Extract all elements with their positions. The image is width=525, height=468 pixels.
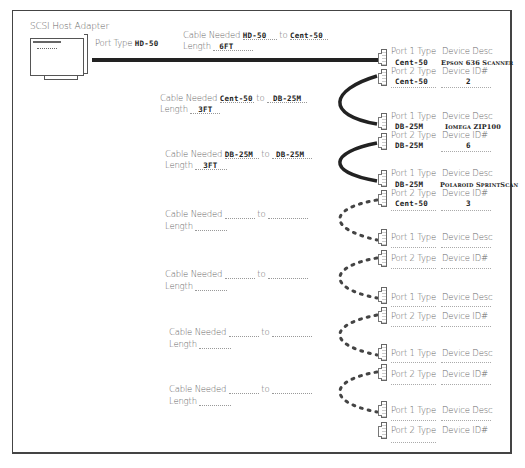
cable-6-length-value[interactable] bbox=[199, 340, 231, 349]
to-label: to bbox=[256, 93, 264, 103]
port-1-connector-icon bbox=[381, 170, 387, 187]
cable-2-from[interactable]: Cent-50 bbox=[220, 94, 254, 103]
device-5-port2-field[interactable] bbox=[391, 326, 436, 327]
port-2-connector-icon bbox=[381, 364, 387, 381]
to-label: to bbox=[279, 30, 287, 40]
device-3-port2-label: Port 2 Type bbox=[391, 188, 436, 198]
length-label: Length bbox=[169, 339, 197, 349]
device-2-port2-value[interactable]: DB-25M bbox=[395, 141, 423, 150]
cable-6-from[interactable] bbox=[229, 328, 259, 337]
device-2-port1-label: Port 1 Type bbox=[391, 111, 436, 121]
device-3-id-value[interactable]: 3 bbox=[466, 199, 471, 208]
device-5-desc-field[interactable] bbox=[441, 306, 491, 307]
port-1-connector-icon bbox=[381, 49, 387, 66]
cable-1-to[interactable]: Cent-50 bbox=[290, 31, 328, 40]
cable-4-from[interactable] bbox=[225, 210, 255, 219]
device-6-desc-field[interactable] bbox=[441, 362, 491, 363]
port-1-connector-icon bbox=[381, 229, 387, 246]
device-4-port2-label: Port 2 Type bbox=[391, 253, 436, 263]
cable-4-needed: Cable Needed to bbox=[165, 209, 308, 219]
device-5-port1-field[interactable] bbox=[391, 306, 436, 307]
cable-2-to[interactable]: DB-25M bbox=[267, 94, 307, 103]
device-5-port2-label: Port 2 Type bbox=[391, 311, 436, 321]
cable-1-length-value[interactable]: 6FT bbox=[213, 42, 253, 51]
device-6-port1-label: Port 1 Type bbox=[391, 348, 436, 358]
field-underline bbox=[391, 210, 436, 211]
field-underline bbox=[441, 210, 491, 211]
cable-6-length: Length bbox=[169, 339, 231, 349]
cable-needed-label: Cable Needed bbox=[165, 209, 222, 219]
field-underline bbox=[441, 151, 491, 152]
device-5-port1-label: Port 1 Type bbox=[391, 292, 436, 302]
device-7-port1-label: Port 1 Type bbox=[391, 405, 436, 415]
device-6-id-label: Device ID# bbox=[442, 369, 488, 379]
cable-4-to[interactable] bbox=[268, 210, 308, 219]
cable-3-length-value[interactable]: 3FT bbox=[195, 161, 227, 170]
device-5-id-field[interactable] bbox=[441, 326, 491, 327]
device-7-id-label: Device ID# bbox=[442, 425, 488, 435]
length-label: Length bbox=[169, 396, 197, 406]
device-5-id-label: Device ID# bbox=[442, 311, 488, 321]
device-2-desc-label: Device Desc bbox=[442, 111, 492, 121]
device-1-id-label: Device ID# bbox=[442, 66, 488, 76]
device-1-port2-label: Port 2 Type bbox=[391, 66, 436, 76]
device-1-port1-label: Port 1 Type bbox=[391, 46, 436, 56]
device-4-port1-field[interactable] bbox=[391, 247, 436, 248]
cable-5-length: Length bbox=[165, 281, 227, 291]
cable-2-length: Length 3FT bbox=[160, 104, 220, 114]
device-6-port2-field[interactable] bbox=[391, 384, 436, 385]
cable-needed-label: Cable Needed bbox=[165, 269, 222, 279]
cable-1-from[interactable]: HD-50 bbox=[243, 31, 277, 40]
cable-3-from[interactable]: DB-25M bbox=[225, 150, 259, 159]
cable-5-from[interactable] bbox=[225, 270, 255, 279]
device-2-id-value[interactable]: 6 bbox=[466, 141, 471, 150]
device-6-desc-label: Device Desc bbox=[442, 348, 492, 358]
length-label: Length bbox=[165, 221, 193, 231]
device-1-id-value[interactable]: 2 bbox=[466, 77, 471, 86]
cable-needed-label: Cable Needed bbox=[169, 327, 226, 337]
cable-7-length-value[interactable] bbox=[199, 397, 231, 406]
device-4-port2-field[interactable] bbox=[391, 268, 436, 269]
device-7-port2-field[interactable] bbox=[391, 442, 436, 443]
port-1-connector-icon bbox=[381, 287, 387, 304]
cable-2-length-value[interactable]: 3FT bbox=[190, 105, 220, 114]
device-4-id-label: Device ID# bbox=[442, 253, 488, 263]
cable-5-length-value[interactable] bbox=[195, 282, 227, 291]
cable-7-from[interactable] bbox=[229, 385, 259, 394]
to-label: to bbox=[257, 209, 265, 219]
device-6-id-field[interactable] bbox=[441, 384, 491, 385]
cable-3-to[interactable]: DB-25M bbox=[272, 150, 312, 159]
cable-2-needed: Cable Needed Cent-50 to DB-25M bbox=[160, 93, 307, 103]
port-2-connector-icon bbox=[381, 69, 387, 86]
to-label: to bbox=[257, 269, 265, 279]
device-6-port1-field[interactable] bbox=[391, 362, 436, 363]
device-7-desc-field[interactable] bbox=[441, 420, 491, 421]
port-1-connector-icon bbox=[381, 113, 387, 130]
cable-7-to[interactable] bbox=[272, 385, 312, 394]
port-2-connector-icon bbox=[381, 422, 387, 439]
cable-needed-label: Cable Needed bbox=[165, 149, 222, 159]
port-2-connector-icon bbox=[381, 190, 387, 207]
cable-7-needed: Cable Needed to bbox=[169, 384, 312, 394]
to-label: to bbox=[261, 149, 269, 159]
length-label: Length bbox=[165, 160, 193, 170]
device-1-desc-label: Device Desc bbox=[442, 46, 492, 56]
cable-needed-label: Cable Needed bbox=[169, 384, 226, 394]
cable-5-to[interactable] bbox=[268, 270, 308, 279]
cable-4-length-value[interactable] bbox=[195, 222, 227, 231]
cable-1-needed: Cable Needed HD-50 to Cent-50 bbox=[183, 30, 328, 40]
device-3-port1-label: Port 1 Type bbox=[391, 168, 436, 178]
device-7-port2-label: Port 2 Type bbox=[391, 425, 436, 435]
device-4-id-field[interactable] bbox=[441, 268, 491, 269]
field-underline bbox=[391, 87, 436, 88]
cable-7-length: Length bbox=[169, 396, 231, 406]
cable-6-to[interactable] bbox=[272, 328, 312, 337]
device-7-port1-field[interactable] bbox=[391, 420, 436, 421]
device-4-port1-label: Port 1 Type bbox=[391, 232, 436, 242]
cable-needed-label: Cable Needed bbox=[183, 30, 240, 40]
port-1-connector-icon bbox=[381, 401, 387, 418]
device-1-port2-value[interactable]: Cent-50 bbox=[395, 77, 428, 86]
cable-1-length: Length 6FT bbox=[183, 41, 253, 51]
device-4-desc-field[interactable] bbox=[441, 247, 491, 248]
device-3-port2-value[interactable]: Cent-50 bbox=[395, 199, 428, 208]
